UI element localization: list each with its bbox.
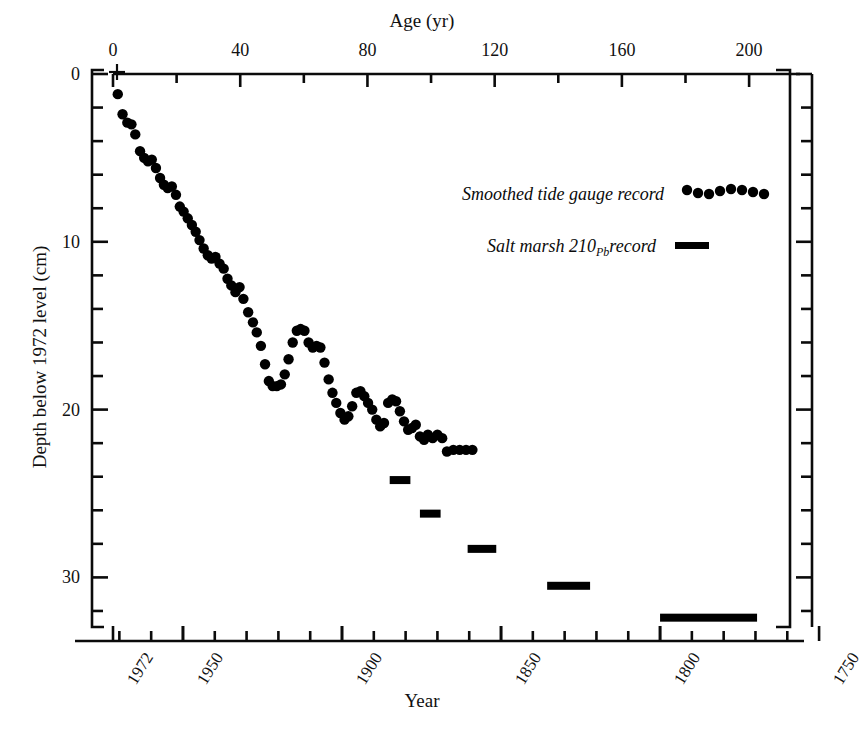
legend-dots-icon	[681, 183, 773, 201]
legend-swatch-bar	[673, 236, 713, 257]
left-tick-label-30: 30	[40, 567, 80, 588]
datum-cross-icon	[109, 64, 125, 80]
tide-gauge-points	[113, 89, 478, 457]
tide-gauge-point-43	[288, 337, 298, 347]
legend-label-salt-marsh-main: Salt marsh 210	[487, 236, 596, 257]
legend-bar-icon	[673, 238, 713, 252]
top-tick-label-80: 80	[358, 40, 376, 61]
tide-gauge-point-14	[171, 190, 181, 200]
tide-gauge-point-32	[243, 307, 253, 317]
top-tick-label-200: 200	[736, 40, 763, 61]
tide-gauge-point-33	[248, 317, 258, 327]
tide-gauge-point-85	[467, 445, 477, 455]
salt-marsh-bar-1	[420, 510, 441, 518]
top-tick-label-120: 120	[481, 40, 508, 61]
tide-gauge-point-69	[391, 396, 401, 406]
tide-gauge-point-36	[260, 359, 270, 369]
tide-gauge-point-26	[218, 263, 228, 273]
salt-marsh-bar-4	[660, 614, 757, 622]
tide-gauge-point-63	[367, 404, 377, 414]
tide-gauge-point-57	[343, 411, 353, 421]
tide-gauge-point-4	[130, 129, 140, 139]
legend-label-salt-marsh-sub: Pb	[596, 245, 609, 259]
legend-swatch-dots	[681, 183, 773, 206]
tide-gauge-point-41	[280, 369, 290, 379]
axis-lines	[75, 70, 812, 641]
tide-gauge-point-9	[151, 163, 161, 173]
salt-marsh-bar-0	[390, 476, 411, 484]
salt-marsh-bar-2	[468, 545, 497, 553]
tide-gauge-point-58	[347, 401, 357, 411]
tide-gauge-point-46	[299, 326, 309, 336]
tide-gauge-point-35	[256, 341, 266, 351]
tide-gauge-point-30	[234, 282, 244, 292]
tide-gauge-point-80	[437, 433, 447, 443]
legend-label-tide-gauge: Smoothed tide gauge record	[462, 184, 664, 205]
tide-gauge-point-34	[252, 327, 262, 337]
tide-gauge-point-66	[379, 418, 389, 428]
tide-gauge-point-52	[323, 374, 333, 384]
salt-marsh-bar-3	[547, 582, 590, 590]
legend-item-tide-gauge: Smoothed tide gauge record	[462, 183, 773, 206]
tide-gauge-point-74	[411, 420, 421, 430]
tide-gauge-point-54	[331, 398, 341, 408]
tide-gauge-point-42	[283, 354, 293, 364]
left-tick-label-0: 0	[40, 64, 80, 85]
top-tick-label-0: 0	[109, 40, 118, 61]
tide-gauge-point-70	[395, 406, 405, 416]
left-tick-label-10: 10	[40, 231, 80, 252]
tide-gauge-point-51	[319, 357, 329, 367]
tide-gauge-point-0	[113, 89, 123, 99]
tide-gauge-point-53	[327, 388, 337, 398]
legend-label-salt-marsh-tail: record	[609, 236, 656, 257]
legend-item-salt-marsh: Salt marsh 210Pb record	[487, 235, 713, 260]
top-tick-label-160: 160	[608, 40, 635, 61]
tide-gauge-point-50	[315, 342, 325, 352]
tide-gauge-point-31	[238, 294, 248, 304]
left-tick-label-20: 20	[40, 399, 80, 420]
salt-marsh-bars	[390, 476, 757, 622]
tide-gauge-point-40	[276, 379, 286, 389]
top-tick-label-40: 40	[231, 40, 249, 61]
tide-gauge-point-3	[126, 119, 136, 129]
axis-ticks	[92, 74, 819, 641]
